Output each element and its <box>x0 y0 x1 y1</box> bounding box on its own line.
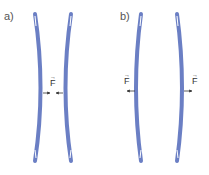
panel-b-right-rod <box>177 14 182 161</box>
panel-b-right-force-label: →F <box>192 76 198 86</box>
panel-b-left-rod <box>136 14 141 161</box>
panel-a-force-label: →F <box>50 78 56 88</box>
panel-a-left-rod <box>35 14 41 161</box>
panel-a-right-rod <box>66 14 72 161</box>
panel-b-left-force-label: →F <box>124 76 130 86</box>
rods-diagram <box>0 0 209 175</box>
